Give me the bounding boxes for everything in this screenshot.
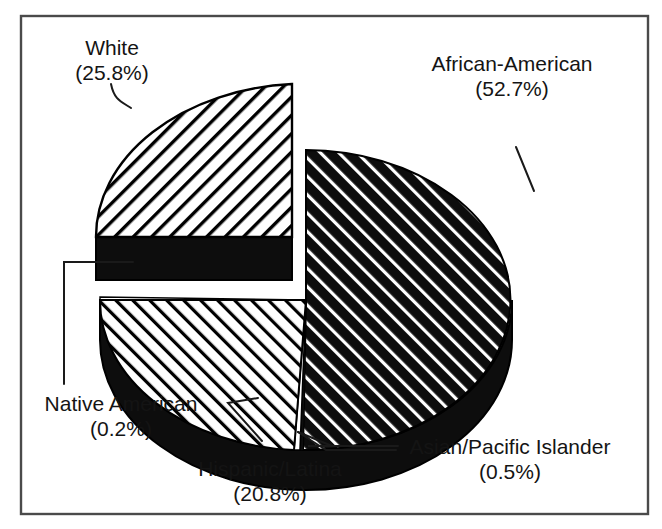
pie-chart-figure: White (25.8%) African-American (52.7%) N… [0, 0, 662, 529]
white-wedge-side-wall [96, 237, 292, 280]
label-african-american-name: African-American [431, 52, 592, 75]
label-hispanic-latina-name: Hispanic/Latina [198, 457, 342, 480]
label-hispanic-latina-pct: (20.8%) [233, 482, 307, 505]
label-white-name: White [85, 36, 139, 59]
label-white-pct: (25.8%) [75, 61, 149, 84]
label-african-american-pct: (52.7%) [475, 77, 549, 100]
pie-chart-svg: White (25.8%) African-American (52.7%) N… [0, 0, 662, 529]
label-asian-pacific-islander-pct: (0.5%) [479, 460, 541, 483]
label-asian-pacific-islander-name: Asian/Pacific Islander [410, 435, 611, 458]
label-native-american-pct: (0.2%) [90, 417, 152, 440]
label-native-american-name: Native American [45, 392, 198, 415]
